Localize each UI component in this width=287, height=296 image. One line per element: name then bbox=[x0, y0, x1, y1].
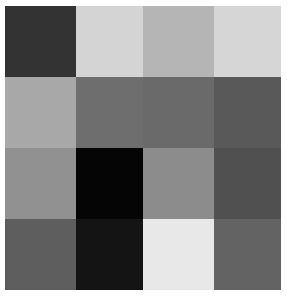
cell-r2c3 bbox=[143, 77, 214, 148]
cell-r2c2 bbox=[76, 77, 143, 148]
cell-r3c3 bbox=[143, 148, 214, 219]
cell-r4c3 bbox=[143, 219, 214, 290]
cell-r3c2 bbox=[76, 148, 143, 219]
image-canvas bbox=[0, 0, 287, 296]
cell-r4c4 bbox=[214, 219, 281, 290]
cell-r3c4 bbox=[214, 148, 281, 219]
cell-r1c3 bbox=[143, 6, 214, 77]
cell-r2c4 bbox=[214, 77, 281, 148]
cell-r1c1 bbox=[5, 6, 76, 77]
cell-r1c2 bbox=[76, 6, 143, 77]
cell-r4c1 bbox=[5, 219, 76, 290]
grayscale-grid bbox=[5, 6, 281, 290]
cell-r2c1 bbox=[5, 77, 76, 148]
cell-r1c4 bbox=[214, 6, 281, 77]
cell-r3c1 bbox=[5, 148, 76, 219]
cell-r4c2 bbox=[76, 219, 143, 290]
